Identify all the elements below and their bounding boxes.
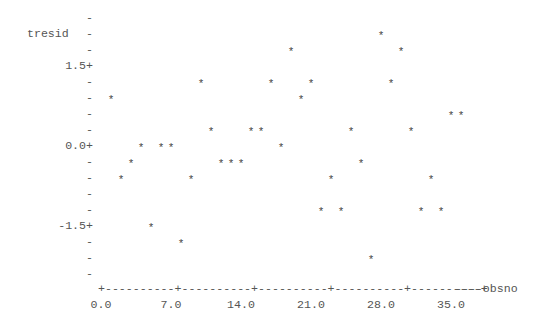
data-point: * [208,127,215,138]
y-axis-minor-tick: - [86,252,93,264]
y-axis-minor-tick: - [86,12,93,24]
y-axis-title: tresid [27,28,69,40]
y-axis-minor-tick: - [86,268,93,280]
y-axis-label-bottom: -1.5+ [53,220,93,232]
data-point: * [358,159,365,170]
x-axis-title: ----obsno [455,283,518,295]
data-point: * [278,143,285,154]
data-point: * [218,159,225,170]
data-point: * [268,79,275,90]
data-point: * [198,79,205,90]
data-point: * [138,143,145,154]
data-point: * [328,175,335,186]
data-point: * [368,255,375,266]
x-axis-tick-label: 35.0 [437,299,465,311]
data-point: * [428,175,435,186]
data-point: * [308,79,315,90]
data-point: * [298,95,305,106]
x-axis-line: +----------+----------+----------+------… [98,283,488,295]
data-point: * [448,111,455,122]
x-axis-tick-label: 7.0 [161,299,182,311]
y-axis-minor-tick: - [86,76,93,88]
x-axis-tick-label: 28.0 [367,299,395,311]
data-point: * [408,127,415,138]
y-axis-label-mid: 0.0+ [53,140,93,152]
y-axis-minor-tick: - [86,124,93,136]
data-point: * [418,207,425,218]
data-point: * [388,79,395,90]
data-point: * [318,207,325,218]
data-point: * [158,143,165,154]
data-point: * [288,47,295,58]
data-point: * [378,31,385,42]
data-point: * [438,207,445,218]
y-axis-minor-tick: - [86,92,93,104]
data-point: * [338,207,345,218]
data-point: * [248,127,255,138]
data-point: * [148,223,155,234]
data-point: * [178,239,185,250]
data-point: * [118,175,125,186]
y-axis-minor-tick: - [86,108,93,120]
data-point: * [238,159,245,170]
y-axis-minor-tick: - [86,44,93,56]
x-axis-tick-label: 14.0 [227,299,255,311]
y-axis-minor-tick: - [86,236,93,248]
data-point: * [458,111,465,122]
data-point: * [128,159,135,170]
data-point: * [108,95,115,106]
y-axis-minor-tick: - [86,204,93,216]
data-point: * [398,47,405,58]
y-axis-label-top: 1.5+ [53,60,93,72]
data-point: * [168,143,175,154]
y-axis-minor-tick: - [86,188,93,200]
data-point: * [258,127,265,138]
y-axis-minor-tick: - [86,28,93,40]
data-point: * [188,175,195,186]
y-axis-minor-tick: - [86,156,93,168]
data-point: * [348,127,355,138]
x-axis-tick-label: 0.0 [91,299,112,311]
data-point: * [228,159,235,170]
y-axis-minor-tick: - [86,172,93,184]
x-axis-tick-label: 21.0 [297,299,325,311]
